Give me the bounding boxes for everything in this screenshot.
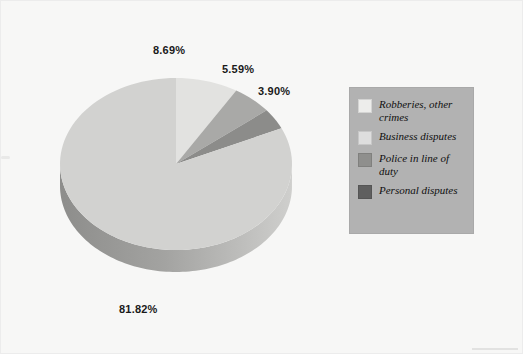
legend-swatch-personal (358, 185, 372, 199)
legend-swatch-police (358, 153, 372, 167)
legend-item[interactable]: Business disputes (358, 130, 465, 145)
legend-label-police: Police in line of duty (379, 152, 465, 177)
legend-label-robberies: Robberies, other crimes (379, 98, 465, 123)
legend-item[interactable]: Robberies, other crimes (358, 98, 465, 123)
chart-legend: Robberies, other crimes Business dispute… (349, 87, 474, 234)
legend-label-business: Business disputes (379, 130, 456, 143)
legend-label-personal: Personal disputes (379, 184, 458, 197)
chart-canvas: 8.69% 5.59% 3.90% 81.82% Robberies, othe… (0, 0, 523, 354)
slice-value-label-robberies: 8.69% (153, 44, 185, 56)
legend-item[interactable]: Personal disputes (358, 184, 465, 199)
slice-value-label-personal: 81.82% (119, 303, 158, 315)
legend-item[interactable]: Police in line of duty (358, 152, 465, 177)
legend-swatch-robberies (358, 99, 372, 113)
pie-top-layer (60, 78, 292, 250)
slice-value-label-business: 5.59% (222, 63, 254, 75)
legend-swatch-business (358, 131, 372, 145)
slice-value-label-police: 3.90% (258, 85, 290, 97)
